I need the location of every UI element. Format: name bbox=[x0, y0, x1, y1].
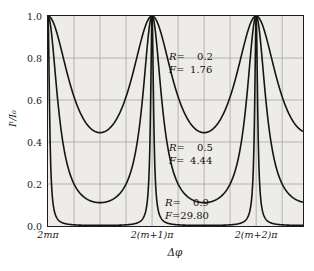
x-axis-tick-label: 2(m+1)π bbox=[112, 229, 192, 241]
x-axis-tick-label: 2mπ bbox=[8, 229, 88, 241]
annotation-series-1: R=0.5F=4.44 bbox=[169, 142, 213, 167]
curve-R=0.9 bbox=[48, 16, 303, 225]
y-axis-tick-label: 0.6 bbox=[12, 95, 42, 106]
x-axis-title: Δφ bbox=[144, 246, 206, 258]
y-axis-tick-label: 0.4 bbox=[12, 137, 42, 148]
annotation-series-0: R=0.2F=1.76 bbox=[169, 51, 213, 76]
figure: Iᵗ/I₀ R=0.2F=1.76R=0.5F=4.44R=0.9F=29.80… bbox=[0, 0, 314, 271]
curves-svg bbox=[48, 16, 303, 226]
annotation-line: R=0.9 bbox=[165, 197, 209, 210]
annotation-series-2: R=0.9F=29.80 bbox=[165, 197, 209, 222]
annotation-line: R=0.5 bbox=[169, 142, 213, 155]
annotation-line: F=29.80 bbox=[165, 210, 209, 223]
annotation-line: R=0.2 bbox=[169, 51, 213, 64]
annotation-line: F=4.44 bbox=[169, 155, 213, 168]
curve-R=0.5 bbox=[48, 16, 303, 203]
annotation-line: F=1.76 bbox=[169, 64, 213, 77]
grid-layer bbox=[48, 16, 303, 226]
y-axis-tick-label: 0.8 bbox=[12, 53, 42, 64]
y-axis-tick-label: 1.0 bbox=[12, 11, 42, 22]
y-axis-tick-label: 0.2 bbox=[12, 179, 42, 190]
x-axis-tick-label: 2(m+2)π bbox=[216, 229, 296, 241]
plot-area: R=0.2F=1.76R=0.5F=4.44R=0.9F=29.80 bbox=[47, 15, 304, 227]
